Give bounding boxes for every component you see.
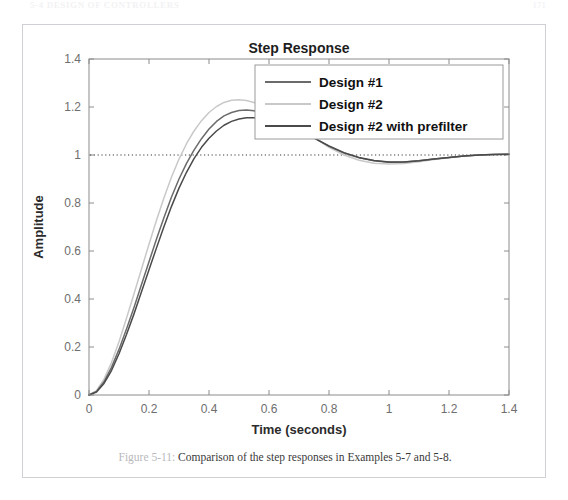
x-tick-label: 0.4 <box>201 402 218 416</box>
x-tick-label: 0.2 <box>141 402 158 416</box>
y-tick-label: 1.4 <box>64 52 81 66</box>
y-tick-label: 0.2 <box>64 340 81 354</box>
figure-frame: Step Response 00.20.40.60.811.21.400.20.… <box>22 24 546 478</box>
legend-label-2: Design #2 <box>319 97 383 112</box>
page-header: 5-4 DESIGN OF CONTROLLERS 171 <box>0 0 568 16</box>
x-tick-label: 1 <box>386 402 393 416</box>
figure-caption-text: Comparison of the step responses in Exam… <box>175 451 451 463</box>
legend-label-1: Design #1 <box>319 75 383 90</box>
step-response-chart: Step Response 00.20.40.60.811.21.400.20.… <box>23 25 547 445</box>
y-tick-label: 1 <box>74 148 81 162</box>
page-number: 171 <box>533 0 547 10</box>
y-tick-label: 0 <box>74 388 81 402</box>
x-tick-label: 1.4 <box>501 402 518 416</box>
x-tick-label: 1.2 <box>441 402 458 416</box>
y-tick-label: 0.4 <box>64 292 81 306</box>
chart-legend[interactable]: Design #1Design #2Design #2 with prefilt… <box>255 65 503 139</box>
figure-caption-label: Figure 5-11: <box>118 451 175 463</box>
y-axis-title: Amplitude <box>31 195 46 259</box>
chart-title: Step Response <box>248 40 349 56</box>
y-tick-label: 1.2 <box>64 100 81 114</box>
figure-caption: Figure 5-11: Comparison of the step resp… <box>23 451 547 463</box>
x-axis-title: Time (seconds) <box>251 422 346 437</box>
x-tick-label: 0.8 <box>321 402 338 416</box>
y-tick-label: 0.8 <box>64 196 81 210</box>
chart-svg: Step Response 00.20.40.60.811.21.400.20.… <box>23 25 547 445</box>
y-tick-label: 0.6 <box>64 244 81 258</box>
page-header-left-text: 5-4 DESIGN OF CONTROLLERS <box>30 0 179 10</box>
x-tick-label: 0.6 <box>261 402 278 416</box>
legend-label-3: Design #2 with prefilter <box>319 119 468 134</box>
x-tick-label: 0 <box>86 402 93 416</box>
